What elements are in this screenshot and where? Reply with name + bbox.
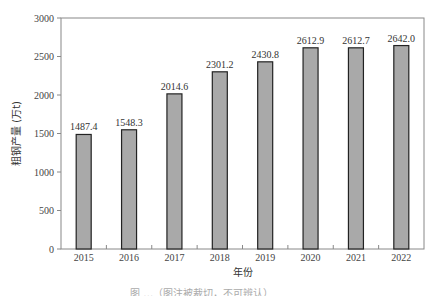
x-axis-title: 年份: [233, 266, 253, 278]
bar-2021: [348, 48, 363, 249]
y-tick-label: 1000: [34, 167, 54, 178]
bar-2016: [122, 130, 137, 249]
y-tick-label: 2500: [34, 51, 54, 62]
y-axis-title: 粗钢产量 (万t): [10, 101, 22, 166]
value-label: 2430.8: [251, 49, 279, 60]
value-label: 2612.7: [342, 35, 370, 46]
x-tick-label: 2017: [164, 252, 184, 263]
value-label: 2612.9: [297, 35, 325, 46]
bar-2022: [394, 46, 409, 249]
bar-2017: [167, 94, 182, 249]
value-label: 1548.3: [115, 117, 143, 128]
x-tick-label: 2022: [391, 252, 411, 263]
bar-chart: 0500100015002000250030001487.420151548.3…: [0, 0, 437, 296]
x-tick-label: 2016: [119, 252, 139, 263]
value-label: 2014.6: [161, 81, 189, 92]
x-tick-label: 2015: [74, 252, 94, 263]
value-label: 2301.2: [206, 59, 234, 70]
figure-caption: 图 …（图注被裁切，不可辨认）: [130, 286, 370, 296]
x-tick-label: 2019: [255, 252, 275, 263]
x-tick-label: 2020: [301, 252, 321, 263]
y-tick-label: 2000: [34, 90, 54, 101]
y-tick-label: 500: [39, 205, 54, 216]
bar-2019: [258, 62, 273, 249]
y-tick-label: 1500: [34, 128, 54, 139]
bar-2015: [76, 134, 91, 249]
plot-frame: [61, 18, 424, 249]
value-label: 1487.4: [70, 121, 98, 132]
plot-area: 0500100015002000250030001487.420151548.3…: [10, 13, 424, 279]
value-label: 2642.0: [388, 33, 416, 44]
x-tick-label: 2021: [346, 252, 366, 263]
y-tick-label: 3000: [34, 13, 54, 24]
bar-2020: [303, 48, 318, 249]
x-tick-label: 2018: [210, 252, 230, 263]
y-tick-label: 0: [49, 244, 54, 255]
bar-2018: [212, 72, 227, 249]
